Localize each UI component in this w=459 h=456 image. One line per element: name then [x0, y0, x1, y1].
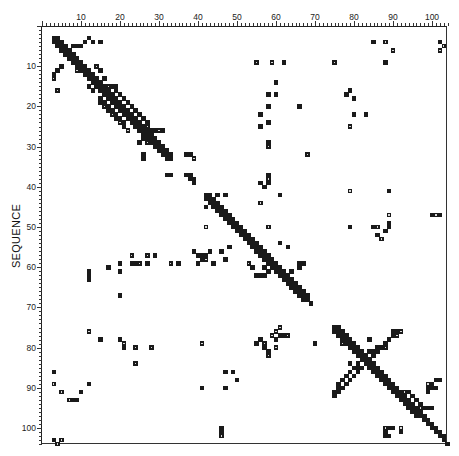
- y-tick-mark: [39, 239, 42, 240]
- contact-cell: [145, 261, 150, 266]
- contact-cell: [297, 265, 302, 270]
- contact-cell: [286, 245, 291, 250]
- contact-cell: [371, 349, 376, 354]
- contact-cell: [149, 345, 154, 350]
- x-tick-mark: [440, 23, 441, 26]
- contact-cell: [137, 140, 142, 145]
- x-tick-mark: [85, 23, 86, 26]
- y-tick-mark: [39, 215, 42, 216]
- y-tick-mark: [39, 404, 42, 405]
- x-tick-mark: [186, 23, 187, 26]
- y-tick-mark: [39, 420, 42, 421]
- x-tick-label: 30: [154, 12, 163, 22]
- contact-cell: [208, 249, 213, 254]
- contact-cell: [348, 189, 353, 194]
- y-tick-mark: [39, 340, 42, 341]
- y-tick-label: 100: [14, 423, 36, 433]
- y-tick-mark: [39, 364, 42, 365]
- contact-cell: [305, 293, 310, 298]
- y-tick-mark: [37, 227, 42, 228]
- y-tick-mark: [39, 167, 42, 168]
- y-tick-label: 30: [14, 142, 36, 152]
- contact-cell: [55, 442, 60, 447]
- y-tick-label: 60: [14, 262, 36, 272]
- contact-cell: [122, 341, 127, 346]
- x-tick-mark: [416, 23, 417, 26]
- y-tick-mark: [37, 428, 42, 429]
- contact-cell: [348, 124, 353, 129]
- contact-cell: [223, 193, 228, 198]
- x-tick-label: 100: [425, 12, 439, 22]
- x-tick-mark: [140, 23, 141, 26]
- x-tick-label: 20: [115, 12, 124, 22]
- x-tick-mark: [288, 23, 289, 26]
- y-tick-mark: [39, 319, 42, 320]
- contact-cell: [196, 261, 201, 266]
- contact-cell: [188, 173, 193, 178]
- x-tick-mark: [132, 23, 133, 26]
- x-tick-mark: [342, 23, 343, 26]
- y-tick-mark: [39, 315, 42, 316]
- contact-cell: [102, 76, 107, 81]
- x-tick-mark: [93, 23, 94, 26]
- y-tick-mark: [37, 147, 42, 148]
- contact-cell: [200, 341, 205, 346]
- y-tick-mark: [39, 259, 42, 260]
- x-tick-mark: [112, 23, 113, 26]
- contact-cell: [59, 64, 64, 69]
- y-tick-mark: [39, 122, 42, 123]
- contact-cell: [266, 120, 271, 125]
- y-tick-mark: [39, 82, 42, 83]
- x-tick-mark: [335, 23, 336, 26]
- x-tick-mark: [436, 23, 437, 26]
- contact-cell: [59, 390, 64, 395]
- contact-cell: [391, 426, 396, 431]
- y-tick-mark: [37, 267, 42, 268]
- contact-cell: [348, 88, 353, 93]
- y-tick-mark: [39, 127, 42, 128]
- x-tick-mark: [389, 23, 390, 26]
- y-tick-label: 50: [14, 222, 36, 232]
- y-tick-mark: [37, 187, 42, 188]
- x-tick-mark: [338, 23, 339, 26]
- contact-cell: [266, 104, 271, 109]
- x-tick-mark: [253, 23, 254, 26]
- y-tick-mark: [39, 114, 42, 115]
- x-tick-mark: [307, 23, 308, 26]
- x-tick-mark: [346, 23, 347, 26]
- contact-cell: [254, 60, 259, 65]
- y-tick-mark: [39, 207, 42, 208]
- x-tick-mark: [65, 23, 66, 26]
- y-tick-mark: [39, 98, 42, 99]
- y-tick-mark: [39, 94, 42, 95]
- contact-cell: [274, 345, 279, 350]
- y-tick-mark: [39, 352, 42, 353]
- x-tick-mark: [366, 23, 367, 26]
- contact-cell: [301, 261, 306, 266]
- y-tick-mark: [37, 106, 42, 107]
- x-tick-mark: [73, 23, 74, 26]
- contact-cell: [79, 44, 84, 49]
- y-tick-mark: [39, 191, 42, 192]
- x-tick-mark: [108, 23, 109, 26]
- contact-cell: [266, 269, 271, 274]
- contact-cell: [219, 249, 224, 254]
- contact-cell: [165, 156, 170, 161]
- x-tick-mark: [397, 23, 398, 26]
- contact-cell: [250, 265, 255, 270]
- y-tick-mark: [39, 159, 42, 160]
- contact-cell: [91, 40, 96, 45]
- contact-cell: [98, 68, 103, 73]
- contact-cell: [169, 261, 174, 266]
- y-tick-mark: [39, 396, 42, 397]
- y-tick-mark: [39, 263, 42, 264]
- contact-cell: [438, 378, 443, 383]
- x-tick-mark: [179, 23, 180, 26]
- contact-cell: [383, 229, 388, 234]
- x-tick-mark: [381, 23, 382, 26]
- x-tick-mark: [292, 23, 293, 26]
- contact-cell: [352, 112, 357, 117]
- y-tick-label: 40: [14, 182, 36, 192]
- y-tick-mark: [37, 348, 42, 349]
- y-tick-mark: [39, 380, 42, 381]
